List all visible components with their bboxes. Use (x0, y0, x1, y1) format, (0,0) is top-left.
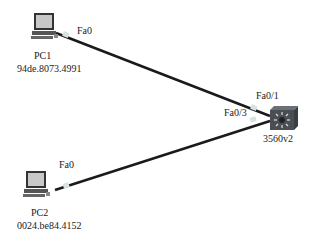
multilayer-switch-icon (268, 106, 298, 130)
link-pc2-switch[interactable] (55, 121, 270, 190)
pc2-name: PC2 (31, 207, 48, 218)
connector-sw-fa03 (250, 116, 257, 123)
pc-icon (22, 170, 52, 202)
pc1-node[interactable] (30, 12, 60, 44)
switch-node[interactable] (268, 106, 298, 130)
pc2-port-label: Fa0 (59, 159, 74, 170)
pc2-mac: 0024.be84.4152 (17, 220, 81, 231)
pc1-port-label: Fa0 (77, 25, 92, 36)
switch-name: 3560v2 (263, 133, 293, 144)
pc2-node[interactable] (22, 170, 52, 202)
pc-icon (30, 12, 60, 44)
switch-port-fa03: Fa0/3 (224, 107, 247, 118)
pc1-mac: 94de.8073.4991 (17, 63, 81, 74)
link-pc1-switch[interactable] (56, 33, 270, 116)
switch-port-fa01: Fa0/1 (256, 90, 279, 101)
pc1-name: PC1 (34, 50, 51, 61)
topology-canvas: Fa0 PC1 94de.8073.4991 Fa0/1 Fa0/3 3560v… (0, 0, 319, 244)
